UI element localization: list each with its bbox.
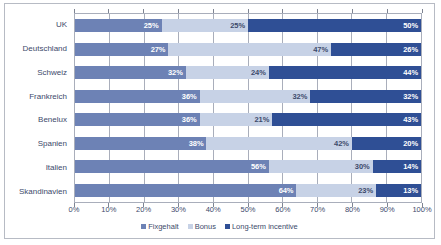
bar-segment: 38% xyxy=(75,137,206,150)
tick-mark-top xyxy=(282,9,283,13)
legend-swatch-icon xyxy=(225,224,230,229)
tick-mark-top xyxy=(108,9,109,13)
bar-segment: 20% xyxy=(352,137,421,150)
tick-mark-top xyxy=(74,9,75,13)
tick-mark-top xyxy=(352,9,353,13)
bar-value-label: 36% xyxy=(182,115,200,124)
y-axis-label: Benelux xyxy=(5,113,71,126)
tick-mark-top xyxy=(422,9,423,13)
bar-segment: 25% xyxy=(162,19,249,32)
bar-value-label: 64% xyxy=(279,186,297,195)
legend-item[interactable]: Bonus xyxy=(188,222,216,231)
bar-value-label: 26% xyxy=(403,45,421,54)
y-axis-label: Italien xyxy=(5,161,71,174)
x-axis-tick-label: 10% xyxy=(101,205,116,214)
tick-mark-top xyxy=(213,9,214,13)
bar-segment: 44% xyxy=(269,66,421,79)
bar-row: 25%25%50% xyxy=(75,19,421,32)
bar-segment: 14% xyxy=(373,160,421,173)
bar-value-label: 20% xyxy=(403,139,421,148)
bar-segment: 32% xyxy=(200,90,311,103)
tick-mark-top xyxy=(143,9,144,13)
bar-row: 27%47%26% xyxy=(75,43,421,56)
bar-segment: 36% xyxy=(75,90,200,103)
bar-segment: 32% xyxy=(75,66,186,79)
bar-value-label: 38% xyxy=(189,139,207,148)
y-axis-label: Skandinavien xyxy=(5,185,71,198)
bar-value-label: 32% xyxy=(403,92,421,101)
bar-segment: 13% xyxy=(376,184,421,197)
bar-value-label: 36% xyxy=(182,92,200,101)
legend-item[interactable]: Long-term incentive xyxy=(225,222,298,231)
bar-segment: 30% xyxy=(269,160,373,173)
bar-segment: 26% xyxy=(331,43,421,56)
tick-mark-top xyxy=(317,9,318,13)
chart-legend: FixgehaltBonusLong-term incentive xyxy=(5,222,434,231)
x-axis-tick-label: 40% xyxy=(206,205,221,214)
bar-value-label: 43% xyxy=(403,115,421,124)
bar-value-label: 27% xyxy=(151,45,169,54)
x-axis-tick-label: 50% xyxy=(240,205,255,214)
bar-row: 64%23%13% xyxy=(75,184,421,197)
x-axis: 0%10%20%30%40%50%60%70%80%90%100% xyxy=(74,205,422,219)
tick-mark-top xyxy=(387,9,388,13)
legend-swatch-icon xyxy=(188,224,193,229)
bar-segment: 47% xyxy=(168,43,331,56)
bar-value-label: 14% xyxy=(403,162,421,171)
bar-row: 32%24%44% xyxy=(75,66,421,79)
bar-segment: 25% xyxy=(75,19,162,32)
bar-segment: 56% xyxy=(75,160,269,173)
bar-value-label: 23% xyxy=(358,186,376,195)
bar-segment: 50% xyxy=(248,19,421,32)
bar-segment: 24% xyxy=(186,66,269,79)
bar-value-label: 30% xyxy=(355,162,373,171)
tick-mark-top xyxy=(248,9,249,13)
plot-area: 25%25%50%27%47%26%32%24%44%36%32%32%36%2… xyxy=(74,13,422,203)
tick-mark-top xyxy=(178,9,179,13)
bar-value-label: 42% xyxy=(334,139,352,148)
bar-row: 56%30%14% xyxy=(75,160,421,173)
x-axis-tick-label: 0% xyxy=(69,205,80,214)
y-axis-label: UK xyxy=(5,18,71,31)
legend-swatch-icon xyxy=(141,224,146,229)
bar-segment: 36% xyxy=(75,113,200,126)
y-axis-label: Spanien xyxy=(5,137,71,150)
bar-value-label: 50% xyxy=(403,21,421,30)
bar-value-label: 25% xyxy=(144,21,162,30)
bar-value-label: 32% xyxy=(293,92,311,101)
x-axis-tick-label: 20% xyxy=(136,205,151,214)
bar-segment: 43% xyxy=(272,113,421,126)
bar-value-label: 47% xyxy=(313,45,331,54)
bar-segment: 64% xyxy=(75,184,296,197)
bar-value-label: 44% xyxy=(403,68,421,77)
bar-value-label: 13% xyxy=(403,186,421,195)
y-axis-label: Deutschland xyxy=(5,42,71,55)
legend-label: Long-term incentive xyxy=(232,222,298,231)
bar-segment: 42% xyxy=(206,137,351,150)
legend-label: Fixgehalt xyxy=(148,222,178,231)
x-axis-tick-label: 60% xyxy=(275,205,290,214)
bar-value-label: 24% xyxy=(251,68,269,77)
bar-value-label: 25% xyxy=(230,21,248,30)
bar-segment: 27% xyxy=(75,43,168,56)
legend-item[interactable]: Fixgehalt xyxy=(141,222,178,231)
legend-label: Bonus xyxy=(195,222,216,231)
y-axis-label: Schweiz xyxy=(5,66,71,79)
x-axis-tick-label: 30% xyxy=(171,205,186,214)
x-axis-tick-label: 100% xyxy=(412,205,431,214)
bar-row: 36%32%32% xyxy=(75,90,421,103)
bar-value-label: 21% xyxy=(254,115,272,124)
x-axis-tick-label: 70% xyxy=(310,205,325,214)
bar-value-label: 32% xyxy=(168,68,186,77)
bar-value-label: 56% xyxy=(251,162,269,171)
bar-row: 36%21%43% xyxy=(75,113,421,126)
bar-row: 38%42%20% xyxy=(75,137,421,150)
x-axis-tick-label: 90% xyxy=(380,205,395,214)
y-axis-label: Frankreich xyxy=(5,90,71,103)
y-axis-category-labels: UKDeutschlandSchweizFrankreichBeneluxSpa… xyxy=(5,13,71,203)
bar-segment: 32% xyxy=(310,90,421,103)
chart-frame: UKDeutschlandSchweizFrankreichBeneluxSpa… xyxy=(4,3,435,239)
bar-segment: 23% xyxy=(296,184,376,197)
bar-rows: 25%25%50%27%47%26%32%24%44%36%32%32%36%2… xyxy=(75,14,421,202)
x-axis-tick-label: 80% xyxy=(345,205,360,214)
